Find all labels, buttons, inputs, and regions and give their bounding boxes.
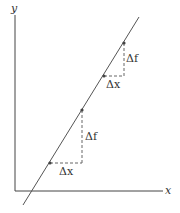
lower-end-point bbox=[80, 108, 83, 111]
upper-df-label: Δf bbox=[126, 52, 139, 65]
x-axis-label: x bbox=[165, 184, 172, 197]
diagram-canvas: y x Δx Δf Δx Δf bbox=[0, 0, 180, 213]
lower-start-point bbox=[48, 161, 51, 164]
lower-dx-label: Δx bbox=[59, 165, 74, 178]
upper-end-point bbox=[122, 41, 125, 44]
y-axis-label: y bbox=[10, 2, 18, 15]
upper-dx-label: Δx bbox=[106, 78, 121, 91]
lower-df-label: Δf bbox=[85, 130, 98, 143]
